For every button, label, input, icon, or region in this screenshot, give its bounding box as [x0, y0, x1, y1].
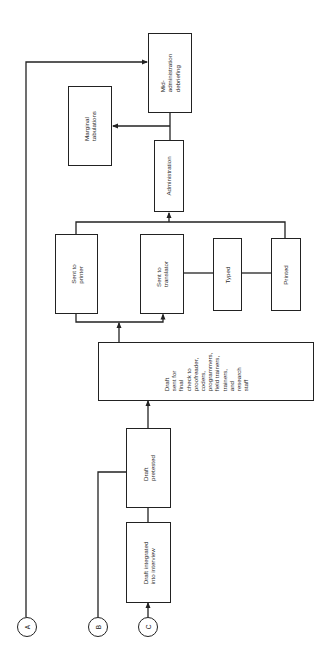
connector-a: A — [17, 617, 37, 637]
node-sent-to-translator: Sent to translator — [140, 234, 184, 314]
node-sent-to-printer: Sent to printer — [55, 234, 98, 314]
node-label: Sent to translator — [155, 261, 170, 287]
connector-label: A — [24, 625, 31, 629]
node-printed: Printed — [271, 238, 301, 311]
line-b-to-pretested — [98, 472, 126, 617]
node-label: Printed — [282, 265, 289, 285]
node-mid-administration-debriefing: Mid- administration debriefing — [148, 33, 192, 113]
node-draft-integrated: Draft integrated into interview — [126, 522, 171, 603]
node-label: Mid- administration debriefing — [159, 54, 181, 93]
connector-label: C — [145, 625, 152, 630]
line-bottom-bar — [76, 314, 163, 322]
node-label: Administration — [165, 156, 172, 195]
node-draft-pretested: Draft pretested — [126, 428, 171, 508]
connector-label: B — [95, 625, 102, 629]
connector-c: C — [138, 617, 158, 637]
node-draft-final-check: Draft sent for final check to proofreade… — [98, 342, 314, 401]
node-label: Draft integrated into interview — [141, 541, 156, 584]
node-label: Marginal tabulations — [83, 111, 98, 141]
flowchart-canvas: Mid- administration debriefing Marginal … — [0, 0, 333, 670]
node-label: Typed — [224, 266, 231, 283]
node-label: Draft pretested — [141, 455, 156, 481]
node-label: Sent to printer — [69, 264, 84, 284]
node-administration: Administration — [154, 140, 184, 212]
node-typed: Typed — [213, 238, 242, 311]
node-marginal-tabulations: Marginal tabulations — [68, 86, 112, 166]
connector-b: B — [88, 617, 108, 637]
node-label: Draft sent for final check to proofreade… — [163, 352, 249, 391]
